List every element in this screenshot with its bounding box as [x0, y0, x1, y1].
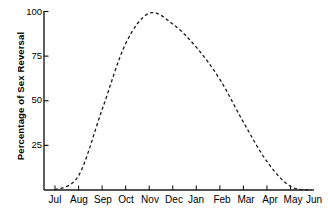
series-line-sex-reversal [55, 13, 314, 190]
chart-figure: Percentage of Sex Reversal 100 75 50 25 … [0, 0, 328, 216]
plot-area [0, 0, 328, 216]
